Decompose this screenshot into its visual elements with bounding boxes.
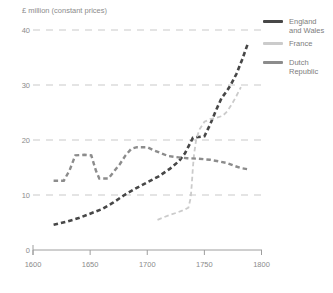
gridlines bbox=[33, 30, 262, 195]
legend-swatch-england-and-wales bbox=[263, 20, 283, 23]
x-tick-label-1750: 1750 bbox=[196, 260, 213, 269]
y-tick-label-40: 40 bbox=[22, 26, 30, 35]
series-line-dutch-republic bbox=[54, 147, 248, 181]
legend-label-england-and-wales: Englandand Wales bbox=[289, 17, 324, 35]
series-lines bbox=[54, 44, 248, 225]
y-axis-title: £ million (constant prices) bbox=[22, 6, 108, 15]
y-tick-label-30: 30 bbox=[22, 81, 30, 90]
y-axis-tick-labels: 010203040 bbox=[22, 26, 30, 255]
y-tick-label-10: 10 bbox=[22, 191, 30, 200]
series-line-france bbox=[158, 87, 241, 220]
x-tick-label-1800: 1800 bbox=[253, 260, 270, 269]
legend-label-dutch-republic: DutchRepublic bbox=[289, 58, 318, 76]
x-axis: 16001650170017501800 bbox=[25, 245, 270, 269]
x-tick-label-1700: 1700 bbox=[139, 260, 156, 269]
legend-swatch-france bbox=[263, 42, 283, 45]
y-tick-label-0: 0 bbox=[26, 246, 30, 255]
x-tick-label-1600: 1600 bbox=[25, 260, 42, 269]
y-tick-label-20: 20 bbox=[22, 136, 30, 145]
legend-item-dutch-republic: DutchRepublic bbox=[263, 58, 318, 76]
legend-item-france: France bbox=[263, 39, 312, 48]
chart-figure: £ million (constant prices) 010203040 16… bbox=[0, 0, 333, 293]
legend-item-england-and-wales: Englandand Wales bbox=[263, 17, 324, 35]
legend-swatch-dutch-republic bbox=[263, 61, 283, 64]
x-tick-label-1650: 1650 bbox=[82, 260, 99, 269]
series-line-england-and-wales bbox=[54, 44, 248, 225]
legend-label-france: France bbox=[289, 39, 312, 48]
